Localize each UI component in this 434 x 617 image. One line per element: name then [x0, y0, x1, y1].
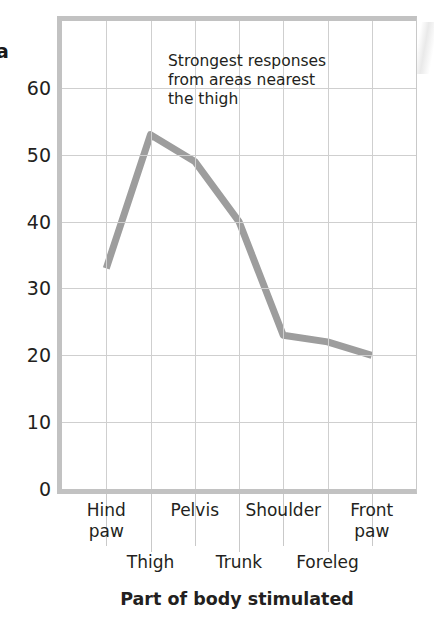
chart-annotation: Strongest responses from areas nearest t… [168, 52, 358, 109]
horizontal-gridline [62, 155, 416, 156]
y-axis-tick-labels: 6050403020100 [0, 0, 51, 617]
x-axis-label-word: Front [350, 500, 393, 520]
x-axis-label-word: Hind [87, 500, 126, 520]
vertical-gridline [106, 21, 107, 489]
x-axis-label-lower: Trunk [193, 552, 285, 573]
x-axis-label-lower: Thigh [105, 552, 197, 573]
y-axis-tick-label: 30 [5, 279, 51, 298]
x-axis-title: Part of body stimulated [57, 589, 417, 609]
x-axis-label-word: paw [89, 521, 124, 541]
figure-container: a 6050403020100 HindpawPelvisShoulderFro… [0, 0, 434, 617]
x-axis-label-word: paw [354, 521, 389, 541]
x-axis-label-upper: Pelvis [149, 500, 241, 521]
x-axis-label-upper: Shoulder [237, 500, 329, 521]
x-axis-label-upper: Frontpaw [326, 500, 418, 542]
y-axis-tick-label: 0 [5, 480, 51, 499]
horizontal-gridline [62, 288, 416, 289]
x-axis-label-word: Shoulder [245, 500, 321, 520]
y-axis-tick-label: 50 [5, 145, 51, 164]
horizontal-gridline [62, 222, 416, 223]
horizontal-gridline [62, 355, 416, 356]
y-axis-tick-label: 20 [5, 346, 51, 365]
vertical-gridline [372, 21, 373, 489]
y-axis-tick-label: 40 [5, 212, 51, 231]
x-axis-label-upper: Hindpaw [60, 500, 152, 542]
x-axis-label-lower: Foreleg [282, 552, 374, 573]
horizontal-gridline [62, 422, 416, 423]
y-axis-tick-label: 10 [5, 413, 51, 432]
x-axis-label-word: Pelvis [171, 500, 219, 520]
y-axis-tick-label: 60 [5, 78, 51, 97]
vertical-gridline [151, 21, 152, 489]
